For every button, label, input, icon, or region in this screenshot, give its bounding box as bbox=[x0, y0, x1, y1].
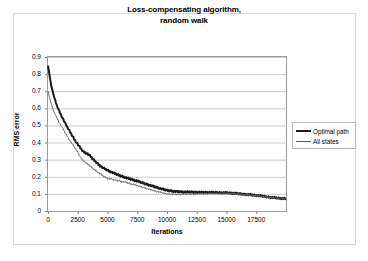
x-axis-tick-label: 12500 bbox=[182, 216, 212, 223]
y-axis-tick-label: 0 bbox=[25, 207, 41, 214]
x-axis-tick-label: 17500 bbox=[241, 216, 271, 223]
legend-item-all-states: All states bbox=[296, 136, 352, 146]
plot-area: 00.10.20.30.40.50.60.70.80.9 02500500075… bbox=[0, 0, 368, 261]
y-axis-tick-label: 0.3 bbox=[25, 156, 41, 163]
plot-border bbox=[48, 57, 287, 212]
legend-item-optimal-path: Optimal path bbox=[296, 126, 352, 136]
chart-legend: Optimal path All states bbox=[292, 122, 356, 149]
data-series-group bbox=[48, 66, 286, 200]
y-axis-tick-label: 0.2 bbox=[25, 173, 41, 180]
y-axis-title: RMS error bbox=[13, 100, 20, 160]
x-axis-tick-label: 5000 bbox=[93, 216, 123, 223]
x-axis-tick-label: 0 bbox=[33, 216, 63, 223]
legend-label: All states bbox=[313, 138, 339, 145]
x-axis-tick-label: 15000 bbox=[212, 216, 242, 223]
x-axis-tick-label: 2500 bbox=[63, 216, 93, 223]
legend-line-swatch-thin bbox=[296, 141, 311, 142]
gridlines bbox=[48, 58, 286, 212]
y-axis-tick-label: 0.9 bbox=[25, 53, 41, 60]
y-axis-tick-label: 0.4 bbox=[25, 139, 41, 146]
series-line bbox=[48, 91, 286, 199]
x-axis-tick-label: 7500 bbox=[122, 216, 152, 223]
y-axis-tick-label: 0.6 bbox=[25, 104, 41, 111]
y-axis-tick-label: 0.5 bbox=[25, 121, 41, 128]
y-axis-tick-label: 0.1 bbox=[25, 190, 41, 197]
x-axis-tick-label: 10000 bbox=[152, 216, 182, 223]
x-axis-title: Iterations bbox=[47, 228, 287, 235]
y-axis-tick-label: 0.7 bbox=[25, 87, 41, 94]
legend-line-swatch-thick bbox=[296, 130, 311, 132]
series-line bbox=[48, 66, 286, 200]
y-axis-tick-label: 0.8 bbox=[25, 70, 41, 77]
legend-label: Optimal path bbox=[313, 128, 349, 135]
